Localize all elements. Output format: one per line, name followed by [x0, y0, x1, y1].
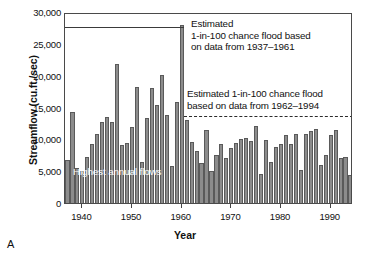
annotation-1962-1994-line2: based on data from 1962–1994: [187, 100, 319, 112]
x-tick-mark: [81, 204, 82, 208]
bar: [244, 138, 248, 203]
x-tick-label: 1980: [260, 211, 300, 222]
figure-panel-a: Streamflow (cu.ft./sec) 05,00010,00015,0…: [0, 0, 370, 257]
bar: [145, 118, 149, 203]
bar: [294, 134, 298, 203]
highest-annual-flows-label: Highest annual flows: [73, 166, 161, 177]
bar: [100, 122, 104, 203]
y-tick-label: 15,000: [15, 103, 61, 114]
bar: [105, 117, 109, 203]
bar: [339, 158, 343, 203]
annotation-1937-1961-line3: on data from 1937–1961: [191, 41, 294, 53]
bar: [279, 144, 283, 203]
y-tick-label: 25,000: [15, 39, 61, 50]
bar: [269, 162, 273, 203]
x-tick-label: 1960: [161, 211, 201, 222]
bar: [170, 166, 174, 203]
x-tick-label: 1950: [111, 211, 151, 222]
bar: [319, 165, 323, 203]
x-tick-label: 1940: [61, 211, 101, 222]
bar: [199, 163, 203, 203]
bar: [249, 141, 253, 203]
bar: [85, 157, 89, 203]
bar: [284, 135, 288, 203]
bar: [185, 120, 189, 203]
bar: [299, 170, 303, 203]
x-axis-title: Year: [0, 229, 370, 241]
bar: [324, 155, 328, 203]
bar: [190, 142, 194, 203]
plot-area: Highest annual flows Estimated 1-in-100 …: [64, 13, 352, 204]
x-tick-label: 1970: [210, 211, 250, 222]
bar: [135, 87, 139, 204]
bar: [209, 171, 213, 203]
y-axis-ticks: 05,00010,00015,00020,00025,00030,000: [15, 0, 61, 257]
bar: [234, 143, 238, 203]
bar: [314, 129, 318, 203]
bar: [195, 151, 199, 203]
bar: [309, 131, 313, 203]
bar: [259, 174, 263, 203]
x-tick-mark: [131, 204, 132, 208]
bar: [224, 158, 228, 203]
annotation-1937-1961-line1: Estimated: [191, 18, 233, 30]
flood-line-1937-1961: [65, 27, 183, 28]
bar: [155, 105, 159, 203]
x-tick-mark: [280, 204, 281, 208]
x-tick-mark: [230, 204, 231, 208]
x-tick-label: 1990: [310, 211, 350, 222]
bar: [343, 157, 347, 203]
bar: [204, 130, 208, 203]
bar: [289, 144, 293, 203]
bar: [274, 147, 278, 203]
y-tick-label: 10,000: [15, 134, 61, 145]
bar: [348, 175, 352, 203]
bar: [160, 75, 164, 203]
bar: [334, 130, 338, 203]
bar: [214, 155, 218, 203]
bar: [304, 134, 308, 203]
bar: [115, 64, 119, 203]
x-tick-mark: [181, 204, 182, 208]
bar: [175, 102, 179, 203]
y-tick-label: 5,000: [15, 166, 61, 177]
y-tick-label: 30,000: [15, 7, 61, 18]
bar: [65, 160, 69, 203]
flood-line-1962-1994: [184, 116, 352, 117]
y-tick-label: 20,000: [15, 71, 61, 82]
bar: [264, 140, 268, 203]
bar: [239, 139, 243, 203]
annotation-1962-1994-line1: Estimated 1-in-100 chance flood: [187, 88, 323, 100]
bar: [180, 25, 184, 203]
bar: [254, 126, 258, 203]
panel-label-a: A: [7, 238, 14, 250]
y-tick-label: 0: [15, 198, 61, 209]
x-tick-mark: [330, 204, 331, 208]
bar: [150, 88, 154, 203]
bar: [219, 144, 223, 203]
bar: [329, 135, 333, 203]
bar: [70, 112, 74, 203]
bar: [165, 115, 169, 203]
annotation-1937-1961-line2: 1-in-100 chance flood based: [191, 30, 311, 42]
bar: [110, 122, 114, 203]
bar: [229, 148, 233, 203]
